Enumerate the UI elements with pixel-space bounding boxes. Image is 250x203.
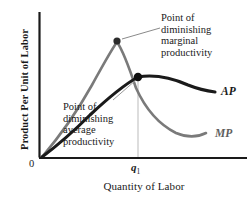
plot-area: [0, 0, 250, 203]
x-axis-title: Quantity of Labor: [40, 180, 248, 192]
x-tick-label-q1: q1: [131, 161, 140, 176]
ap-peak-marker: [134, 73, 142, 81]
annotation-diminishing-average-productivity: Point of diminishing average productivit…: [63, 101, 114, 147]
annotation-diminishing-marginal-productivity: Point of diminishing marginal productivi…: [161, 12, 212, 58]
y-axis-title: Product Per Unit of Labor: [19, 15, 30, 165]
leader-line-marginal: [122, 28, 160, 39]
origin-label: 0: [29, 158, 34, 169]
mp-curve-label: MP: [215, 127, 232, 139]
production-curves-figure: Product Per Unit of Labor Quantity of La…: [0, 0, 250, 203]
x-tick-label-q1-sub: 1: [137, 167, 141, 176]
mp-peak-marker: [113, 37, 120, 44]
ap-curve-label: AP: [221, 85, 236, 97]
